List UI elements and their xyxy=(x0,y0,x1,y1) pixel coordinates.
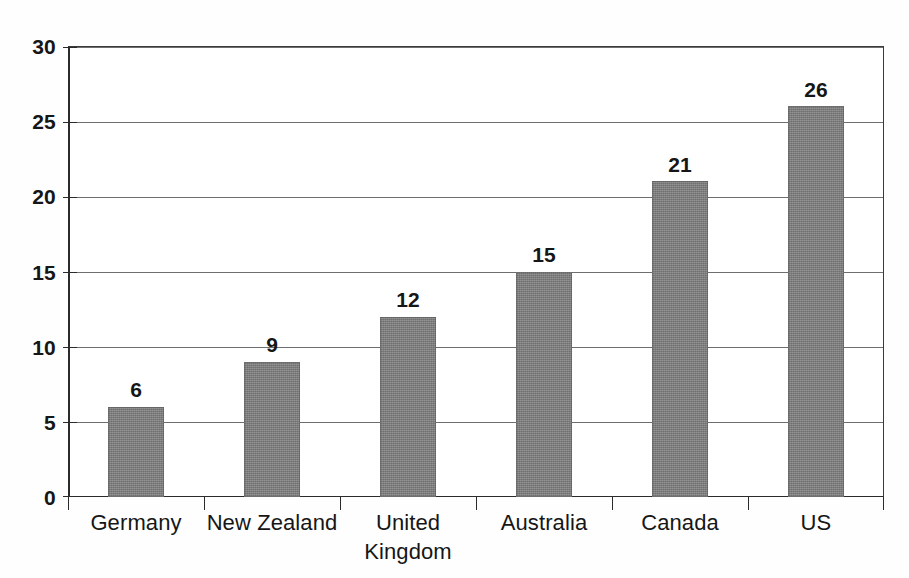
y-axis-tick-label: 20 xyxy=(6,186,56,207)
x-axis-label-line: US xyxy=(748,508,884,537)
gridline-30 xyxy=(70,47,883,48)
x-axis-label-australia: Australia xyxy=(476,508,612,537)
x-axis-label-germany: Germany xyxy=(68,508,204,537)
gridline-5 xyxy=(70,422,883,423)
y-axis-tick xyxy=(63,47,77,48)
x-axis-label-line: New Zealand xyxy=(204,508,340,537)
x-axis-label-united-kingdom: United Kingdom xyxy=(340,508,476,566)
y-axis-tick xyxy=(63,347,77,348)
x-axis-label-line: Australia xyxy=(476,508,612,537)
gridline-20 xyxy=(70,197,883,198)
x-axis-label-line: Kingdom xyxy=(340,537,476,566)
x-axis-label-new-zealand: New Zealand xyxy=(204,508,340,537)
y-axis-tick-label: 30 xyxy=(6,36,56,57)
y-axis-tick-label: 15 xyxy=(6,261,56,282)
y-axis-labels: 30 25 20 15 10 5 0 xyxy=(0,46,56,497)
y-axis-tick xyxy=(63,272,77,273)
gridline-10 xyxy=(70,347,883,348)
y-axis-tick xyxy=(63,422,77,423)
bar-chart: 30 25 20 15 10 5 0 6 9 xyxy=(0,0,909,578)
x-axis-label-line: Germany xyxy=(68,508,204,537)
x-axis-label-canada: Canada xyxy=(612,508,748,537)
gridline-15 xyxy=(70,272,883,273)
y-axis-tick-label: 5 xyxy=(6,411,56,432)
x-axis-label-line: Canada xyxy=(612,508,748,537)
x-axis-label-line: United xyxy=(340,508,476,537)
y-axis-tick xyxy=(63,122,77,123)
y-axis-tick-label: 10 xyxy=(6,336,56,357)
x-axis-labels: Germany New Zealand United Kingdom Austr… xyxy=(68,508,884,578)
plot-area xyxy=(68,46,884,497)
gridline-25 xyxy=(70,122,883,123)
y-axis-tick xyxy=(63,197,77,198)
y-axis-tick-label: 25 xyxy=(6,111,56,132)
x-axis-label-us: US xyxy=(748,508,884,537)
y-axis-tick-label: 0 xyxy=(6,487,56,508)
